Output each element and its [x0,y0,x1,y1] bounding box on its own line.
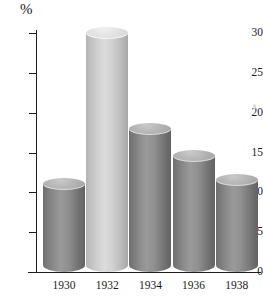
y-axis-tick [29,192,36,193]
y-axis-tick [29,33,36,34]
page-speck-artifact [253,104,256,109]
bar-body [43,184,85,272]
bar-1938 [216,174,258,272]
bar-body [129,129,171,272]
y-axis-tick [28,272,36,273]
bar-body [173,156,215,272]
bar-body [86,33,128,272]
bar-top-ellipse [129,123,171,135]
y-axis-tick [29,73,36,74]
y-axis-tick [29,232,36,233]
bar-1934 [129,123,171,272]
cylinder-bar-chart: % 051015202530 19301932193419361938 [0,0,263,300]
bar-1936 [173,150,215,272]
bar-body [216,180,258,272]
x-axis-tick-label-1938: 1938 [211,279,263,291]
y-axis-label: % [20,1,33,18]
bar-1930 [43,178,85,272]
bar-top-ellipse [86,27,128,39]
y-axis-tick [29,153,36,154]
y-axis-tick [29,113,36,114]
plot-area [37,0,261,272]
bar-1932 [86,27,128,272]
x-axis-spine [36,272,261,273]
